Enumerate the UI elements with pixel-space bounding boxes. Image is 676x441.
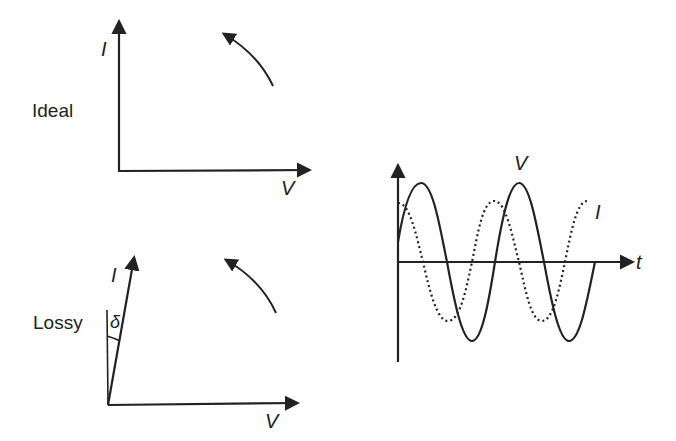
ideal-voltage-axis [118,170,309,171]
time-axis-label: t [636,251,643,273]
lossy-i-label: I [111,264,117,286]
lossy-delta-label: δ [110,312,121,332]
lossy-rotation-arrow-icon [226,260,276,313]
ideal-phasor-panel: I Ideal V [32,22,309,199]
current-wave-label: I [595,201,601,223]
lossy-phasor-panel: I Lossy δ V [33,258,297,432]
lossy-delta-arc [107,336,120,341]
voltage-wave-label: V [514,152,529,174]
waveform-panel: t V I [398,152,643,362]
ideal-rotation-arrow-icon [224,34,273,86]
lossy-row-label: Lossy [33,312,83,333]
capacitor-phasor-diagram: I Ideal V I Lossy δ V t V I [0,0,676,441]
lossy-reference-line [107,310,108,405]
ideal-v-label: V [281,177,296,199]
lossy-voltage-axis [108,403,297,405]
ideal-i-label: I [101,38,107,60]
lossy-v-label: V [265,410,280,432]
ideal-row-label: Ideal [32,100,73,121]
